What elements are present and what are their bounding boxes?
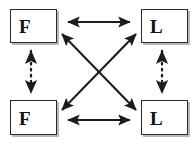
node-label-top-left: F: [19, 17, 31, 36]
node-label-bottom-right: L: [150, 108, 163, 127]
node-label-top-right: L: [150, 17, 163, 36]
node-label-bottom-left: F: [19, 108, 31, 127]
node-box-top-right: L: [141, 9, 188, 43]
node-box-bottom-left: F: [10, 100, 57, 135]
node-box-bottom-right: L: [141, 100, 188, 135]
diagram-canvas: F L F L: [0, 0, 195, 144]
node-box-top-left: F: [10, 9, 57, 43]
